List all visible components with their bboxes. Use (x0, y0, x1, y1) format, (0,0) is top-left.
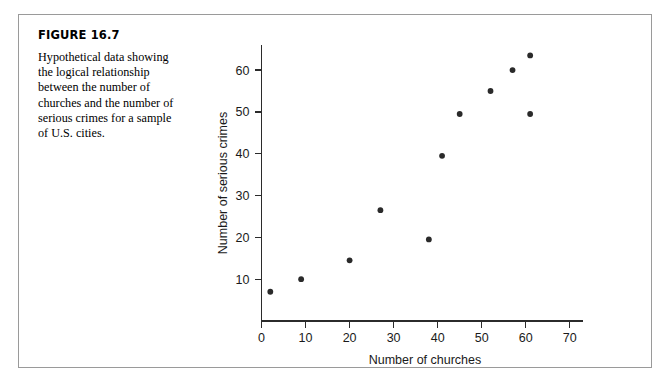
data-point (527, 53, 533, 59)
data-point (527, 111, 533, 117)
y-tick-label: 30 (236, 189, 250, 203)
data-point (347, 257, 353, 263)
y-tick-label: 50 (236, 105, 250, 119)
data-point (439, 153, 445, 159)
y-tick-label: 60 (236, 64, 250, 78)
data-point (457, 111, 463, 117)
x-tick-label: 50 (475, 331, 489, 345)
x-tick-label: 60 (519, 331, 533, 345)
figure-frame: FIGURE 16.7 Hypothetical data showing th… (18, 14, 652, 368)
x-axis-title: Number of churches (369, 353, 482, 366)
y-tick-label: 10 (236, 273, 250, 287)
figure-caption-text: Hypothetical data showing the logical re… (38, 50, 198, 141)
x-tick-label: 70 (563, 331, 577, 345)
data-points-layer (267, 53, 533, 295)
figure-number-label: FIGURE 16.7 (38, 28, 198, 42)
x-tick-label: 20 (343, 331, 357, 345)
scatter-plot-svg: 102030405060 010203040506070 Number of s… (205, 21, 635, 366)
data-point (426, 237, 432, 243)
data-point (378, 207, 384, 213)
x-tick-label: 10 (299, 331, 313, 345)
data-point (267, 289, 273, 295)
data-point (298, 276, 304, 282)
x-axis-ticks: 010203040506070 (258, 321, 577, 345)
figure-caption-block: FIGURE 16.7 Hypothetical data showing th… (38, 28, 198, 141)
scatter-plot: 102030405060 010203040506070 Number of s… (205, 21, 635, 366)
x-tick-label: 40 (431, 331, 445, 345)
y-tick-label: 20 (236, 231, 250, 245)
x-tick-label: 0 (258, 331, 265, 345)
y-axis-ticks: 102030405060 (236, 64, 262, 287)
x-tick-label: 30 (387, 331, 401, 345)
data-point (510, 67, 516, 73)
y-axis-title: Number of serious crimes (216, 112, 230, 254)
y-tick-label: 40 (236, 147, 250, 161)
data-point (488, 88, 494, 94)
